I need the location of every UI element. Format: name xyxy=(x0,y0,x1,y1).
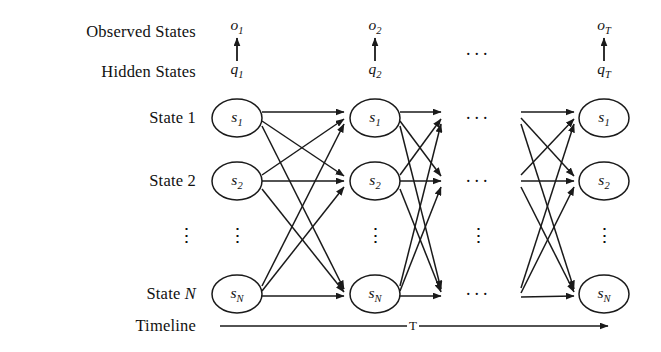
node-tT-sN xyxy=(579,275,629,313)
time-gap-vertical-ellipsis: ⋮ xyxy=(469,226,488,245)
node-t2-s2 xyxy=(350,162,400,200)
hidden-symbol-tT-base: q xyxy=(597,60,605,77)
emission-arrows xyxy=(237,38,604,61)
time-gap-ellipsis-s2: ··· xyxy=(465,171,490,192)
row-label-state-2: State 2 xyxy=(149,171,196,191)
row-label-hidden-states: Hidden States xyxy=(101,62,196,82)
observed-symbol-t1: o1 xyxy=(231,16,244,36)
observed-symbol-tT-base: o xyxy=(597,16,605,33)
hidden-symbol-t1: q1 xyxy=(231,60,244,80)
row-label-state-1: State 1 xyxy=(149,108,196,128)
hidden-symbol-tT: qT xyxy=(597,60,611,80)
observed-symbol-t2-sub: 2 xyxy=(376,25,381,36)
column-vertical-ellipsis-t2: ⋮ xyxy=(366,226,385,245)
transition-edges-t2-truncated xyxy=(400,112,441,296)
observed-symbol-tT: oT xyxy=(597,16,611,36)
observed-symbol-tT-sub: T xyxy=(605,25,611,36)
column-vertical-ellipsis-tT: ⋮ xyxy=(595,226,614,245)
row-label-timeline: Timeline xyxy=(135,316,196,336)
time-gap-ellipsis-s1: ··· xyxy=(465,108,490,129)
row-label-state-n-text: State N xyxy=(146,284,196,303)
row-label-state-n: State N xyxy=(146,284,196,304)
hidden-symbol-t2: q2 xyxy=(369,60,382,80)
hidden-symbol-t2-base: q xyxy=(369,60,377,77)
observed-symbol-t1-sub: 1 xyxy=(238,25,243,36)
time-gap-ellipsis-sN: ··· xyxy=(465,284,490,305)
hidden-symbol-tT-sub: T xyxy=(605,69,611,80)
hmm-trellis-diagram: Observed States Hidden States State 1 St… xyxy=(0,0,661,352)
node-tT-s1 xyxy=(579,99,629,137)
node-t1-sN xyxy=(212,275,262,313)
column-vertical-ellipsis-t1: ⋮ xyxy=(228,226,247,245)
hidden-symbol-t1-sub: 1 xyxy=(238,69,243,80)
node-t1-s1 xyxy=(212,99,262,137)
time-gap-ellipsis-top: ··· xyxy=(465,44,490,65)
transition-edges-into-tT xyxy=(521,112,574,297)
hidden-symbol-t1-base: q xyxy=(231,60,239,77)
node-t2-sN xyxy=(350,275,400,313)
observed-symbol-t1-base: o xyxy=(231,16,239,33)
observed-symbol-t2: o2 xyxy=(369,16,382,36)
transition-edges-t1-t2 xyxy=(262,112,344,296)
row-label-vertical-ellipsis: ⋮ xyxy=(177,226,196,245)
timeline-length-label: T xyxy=(407,318,419,334)
node-tT-s2 xyxy=(579,162,629,200)
row-label-observed-states: Observed States xyxy=(86,22,196,42)
node-t2-s1 xyxy=(350,99,400,137)
observed-symbol-t2-base: o xyxy=(369,16,377,33)
node-t1-s2 xyxy=(212,162,262,200)
diagram-canvas xyxy=(0,0,661,352)
hidden-symbol-t2-sub: 2 xyxy=(376,69,381,80)
